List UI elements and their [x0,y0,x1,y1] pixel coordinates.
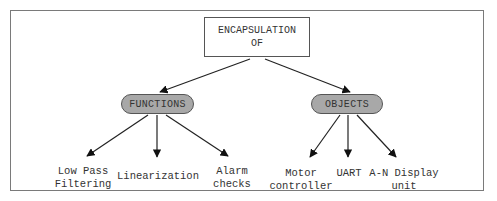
edge-root-objects [265,59,350,92]
leaf-node-motor-controller: Motor controller [269,167,332,193]
root-label-line1: ENCAPSULATION [218,24,296,37]
leaf-line1: Alarm [213,165,251,178]
leaf-node-linearization: Linearization [117,170,199,183]
leaf-node-alarm-checks: Alarm checks [213,165,251,191]
category-node-functions: FUNCTIONS [121,94,194,114]
leaf-line1: A-N Display [369,167,438,180]
root-node: ENCAPSULATION OF [204,17,310,57]
leaf-node-an-display-unit: A-N Display unit [369,167,438,193]
leaf-node-uart: UART [336,167,361,180]
leaf-line2: checks [213,178,251,191]
leaf-line1: Motor [269,167,332,180]
category-label: FUNCTIONS [129,99,186,110]
edge-objects-display [357,115,396,157]
leaf-line2: unit [369,180,438,193]
leaf-line2: controller [269,180,332,193]
leaf-line1: Linearization [117,170,199,183]
leaf-line1: Low Pass [55,165,112,178]
category-node-objects: OBJECTS [311,94,383,114]
leaf-line1: UART [336,167,361,180]
edge-objects-motor [310,115,340,157]
edge-functions-lowpass [87,115,148,156]
leaf-line2: Filtering [55,178,112,191]
edge-functions-alarm [166,115,228,156]
leaf-node-low-pass-filtering: Low Pass Filtering [55,165,112,191]
edge-root-functions [160,59,250,92]
category-label: OBJECTS [325,99,369,110]
root-label-line2: OF [251,37,263,50]
